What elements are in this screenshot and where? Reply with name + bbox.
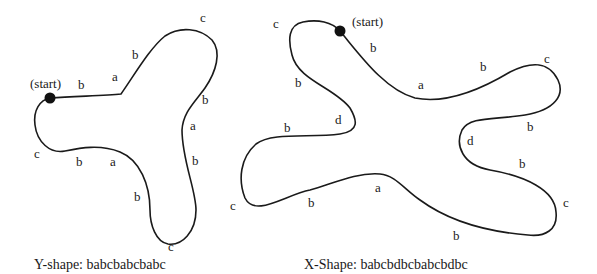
y-edge-label: c	[168, 240, 174, 253]
y-shape-caption: Y-shape: babcbabcbabc	[34, 258, 166, 272]
x-edge-label: a	[418, 78, 424, 91]
x-edge-label: b	[308, 196, 315, 209]
y-edge-label: b	[202, 93, 209, 106]
x-shape-caption: X-Shape: babcbdbcbabcbdbc	[304, 258, 468, 272]
y-edge-label: a	[190, 119, 196, 132]
y-edge-label: b	[134, 190, 141, 203]
x-edge-label: c	[230, 199, 236, 212]
y-shape-curve	[35, 30, 217, 245]
y-shape-start-label: (start)	[30, 77, 61, 90]
x-edge-label: b	[370, 41, 377, 54]
x-edge-label: b	[295, 76, 302, 89]
x-shape-start-label: (start)	[352, 15, 383, 28]
x-edge-label: b	[527, 120, 534, 133]
y-edge-label: a	[112, 70, 118, 83]
x-edge-label: b	[284, 121, 291, 134]
y-edge-label: a	[110, 155, 116, 168]
y-edge-label: c	[200, 11, 206, 24]
x-edge-label: b	[453, 229, 460, 242]
y-shape-start-dot	[45, 93, 56, 104]
x-edge-label: b	[480, 60, 487, 73]
y-edge-label: b	[78, 78, 85, 91]
x-edge-label: c	[563, 196, 569, 209]
y-edge-label: b	[132, 48, 139, 61]
x-edge-label: d	[467, 134, 474, 147]
x-edge-label: b	[519, 157, 526, 170]
y-edge-label: c	[34, 147, 40, 160]
y-edge-label: b	[192, 154, 199, 167]
y-edge-label: b	[76, 155, 83, 168]
diagram-canvas	[0, 0, 597, 274]
x-shape-start-dot	[335, 26, 346, 37]
x-edge-label: d	[335, 113, 342, 126]
x-edge-label: c	[273, 17, 279, 30]
x-edge-label: c	[544, 52, 550, 65]
x-edge-label: a	[375, 181, 381, 194]
